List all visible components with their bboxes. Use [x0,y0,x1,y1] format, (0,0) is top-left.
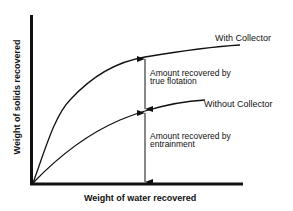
with-collector-label: With Collector [215,33,271,43]
without-collector-label: Without Collector [204,99,273,109]
true-flotation-label-line2: true flotation [150,77,231,85]
y-axis-label: Weight of solids recovered [12,40,22,155]
entrainment-label-line2: entrainment [150,140,231,148]
entrainment-label: Amount recovered by entrainment [150,132,231,148]
recovery-diagram: With Collector Without Collector Amount … [0,0,293,211]
true-flotation-label: Amount recovered by true flotation [150,69,231,85]
x-axis-label: Weight of water recovered [84,193,196,203]
